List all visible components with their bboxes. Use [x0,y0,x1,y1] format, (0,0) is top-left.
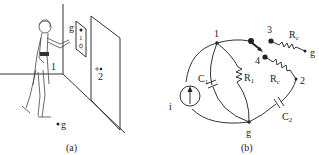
door [91,16,120,130]
panel-dot [80,29,83,32]
node-1-label: 1 [51,61,56,72]
caption-b: (b) [241,142,253,154]
node-2-label-b: 2 [300,75,305,86]
terminal-4-label: 4 [255,55,260,66]
ground-right-dot [304,50,307,53]
node-g-label: g [246,127,251,138]
panel-mark-0 [80,44,83,48]
panel-a-illustration: 1 g 2 1 g [0,4,125,154]
panel-mark-1: 1 [79,34,83,42]
floor-ground-dot [57,123,60,126]
node-1-label-b: 1 [214,28,219,39]
door-knob-dot [100,68,103,71]
c2-plate-b [278,97,284,106]
wire-r1-bottom [237,82,249,122]
wire-to-switch [217,40,249,43]
rc-top-label: Rc [289,29,299,42]
r1-label: R1 [244,72,255,85]
door-knob-ring [96,68,98,70]
wire-left-bottom [192,109,249,123]
c1-label: C1 [198,73,209,86]
rc-mid-label: Rc [270,73,280,86]
panel-b-circuit: i 1 g C1 R1 3 g Rc 4 2 [169,24,315,154]
node-2-label: 2 [98,71,103,82]
wire-node2-c2 [281,79,296,102]
source-arrow-head-icon [188,86,193,92]
wire-r1-top [217,43,238,67]
c2-label: C2 [282,111,293,124]
panel-ground-label: g [69,22,74,33]
wire-c2-g [249,104,276,122]
caption-a: (a) [66,142,77,154]
terminal-4-dot [262,54,267,59]
ground-right-label: g [310,47,315,58]
rc-top-zigzag [273,42,305,51]
terminal-3-dot [268,38,273,43]
terminal-3-label: 3 [267,24,272,35]
source-label: i [169,101,172,112]
c2-plate-a [274,99,280,108]
figure: 1 g 2 1 g [0,0,319,155]
r1-zigzag [236,67,242,82]
floor-ground-label: g [61,119,66,130]
wire-c1-top [210,43,217,85]
